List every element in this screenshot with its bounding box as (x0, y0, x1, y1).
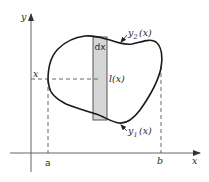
x-axis-label: x (192, 155, 198, 166)
y2-pointer-arrow (121, 35, 127, 42)
l-of-x-label: l(x) (109, 73, 125, 84)
y1-label: y1(x) (127, 125, 152, 139)
region-diagram: y x a b x dx l(x) y2(x) y1(x) (0, 0, 209, 182)
y-axis-label: y (20, 11, 27, 22)
x-position-label: x (33, 68, 39, 79)
dx-label: dx (95, 42, 107, 52)
y1-pointer-arrow (121, 125, 127, 131)
y2-label: y2(x) (127, 27, 152, 41)
a-label: a (45, 158, 51, 168)
b-label: b (157, 155, 163, 166)
